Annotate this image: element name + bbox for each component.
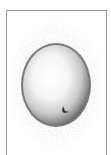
- cytoplasm: [23, 45, 89, 125]
- ovum-illustration: [0, 0, 111, 155]
